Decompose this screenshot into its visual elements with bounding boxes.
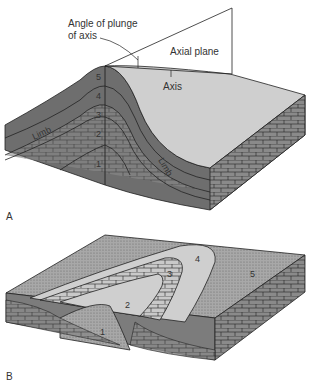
plunge-leader bbox=[100, 38, 138, 60]
layer-3-a: 3 bbox=[96, 110, 101, 120]
plunging-anticline-diagram: Angle of plunge of axis Axial plane Axis… bbox=[0, 0, 315, 383]
layer-3-b: 3 bbox=[167, 269, 172, 279]
axis-label: Axis bbox=[163, 81, 182, 92]
layer-5-a: 5 bbox=[96, 72, 101, 82]
layer-1-a: 1 bbox=[96, 159, 101, 169]
panel-a-block bbox=[5, 66, 305, 210]
axial-plane-label: Axial plane bbox=[170, 46, 219, 57]
layer-4-b: 4 bbox=[195, 254, 200, 264]
layer-4-a: 4 bbox=[96, 91, 101, 101]
layer-1-b: 1 bbox=[100, 327, 105, 337]
angle-of-plunge-label: Angle of plunge bbox=[68, 18, 138, 29]
layer-2-b: 2 bbox=[125, 300, 130, 310]
of-axis-label: of axis bbox=[68, 30, 97, 41]
panel-a-label: A bbox=[6, 211, 13, 222]
layer-5-b: 5 bbox=[250, 269, 255, 279]
panel-b-block bbox=[6, 235, 305, 360]
layer-2-a: 2 bbox=[96, 129, 101, 139]
panel-b-label: B bbox=[6, 371, 13, 382]
